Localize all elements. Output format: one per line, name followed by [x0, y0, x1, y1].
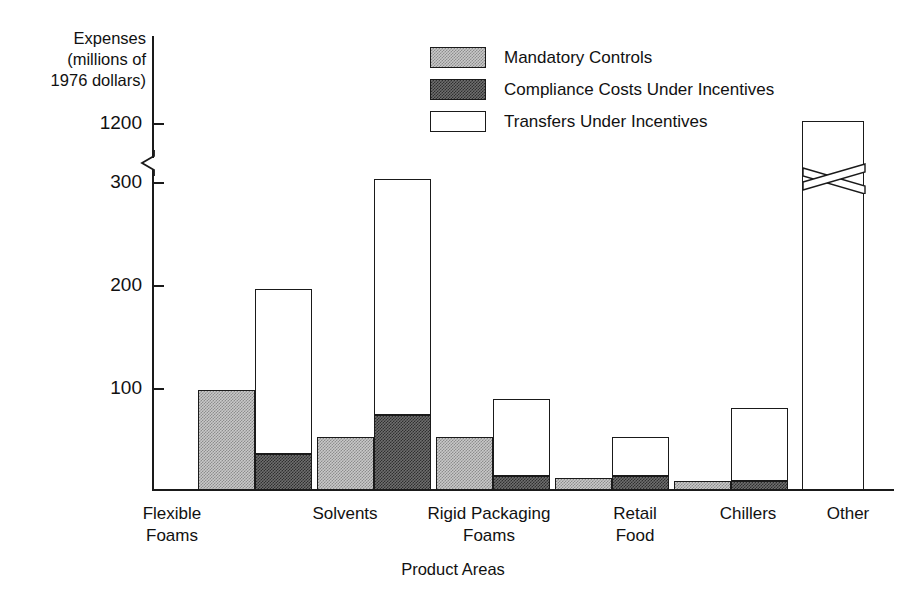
- x-tick-label-rigid-packaging-foams-line-2: Foams: [400, 525, 578, 547]
- bar-mandatory-chillers: [674, 481, 731, 490]
- x-tick-label-solvents: Solvents: [290, 503, 400, 525]
- bar-chart: Expenses (millions of 1976 dollars) 1200…: [0, 0, 906, 600]
- bar-incentives-other: [802, 121, 864, 490]
- segment-compliance-retail-food: [612, 476, 669, 490]
- x-tick-label-retail-food-line-1: Retail: [580, 503, 690, 525]
- segment-transfers-rigid-packaging-foams: [493, 399, 550, 476]
- x-axis-title: Product Areas: [0, 560, 906, 579]
- segment-transfers-solvents: [374, 179, 431, 415]
- y-axis-title-line-3: 1976 dollars): [18, 70, 146, 91]
- y-tick-label-100: 100: [52, 377, 142, 399]
- bar-mandatory-retail-food: [555, 478, 612, 490]
- segment-transfers-retail-food: [612, 437, 669, 476]
- bar-break-icon-other: [801, 160, 867, 194]
- x-tick-label-rigid-packaging-foams-line-1: Rigid Packaging: [400, 503, 578, 525]
- bar-incentives-flexible-foams: [255, 289, 312, 490]
- segment-compliance-solvents: [374, 415, 431, 490]
- plot-area: [154, 60, 894, 490]
- bar-incentives-rigid-packaging-foams: [493, 399, 550, 490]
- y-tick-label-1200: 1200: [52, 112, 142, 134]
- bar-mandatory-flexible-foams: [198, 390, 255, 490]
- segment-transfers-chillers: [731, 408, 788, 481]
- x-tick-label-other-line-1: Other: [800, 503, 896, 525]
- y-axis-title-line-2: (millions of: [18, 49, 146, 70]
- bar-incentives-retail-food: [612, 437, 669, 490]
- y-tick-label-200: 200: [52, 274, 142, 296]
- x-tick-label-rigid-packaging-foams: Rigid Packaging Foams: [400, 503, 578, 547]
- x-tick-label-solvents-line-1: Solvents: [290, 503, 400, 525]
- bar-mandatory-solvents: [317, 437, 374, 490]
- segment-compliance-chillers: [731, 481, 788, 490]
- bar-incentives-solvents: [374, 179, 431, 490]
- x-tick-label-retail-food: Retail Food: [580, 503, 690, 547]
- y-axis-title: Expenses (millions of 1976 dollars): [18, 28, 146, 91]
- segment-compliance-rigid-packaging-foams: [493, 476, 550, 490]
- bar-incentives-chillers: [731, 408, 788, 490]
- x-tick-label-chillers-line-1: Chillers: [693, 503, 803, 525]
- x-tick-label-flexible-foams-line-1: Flexible: [112, 503, 232, 525]
- x-tick-label-flexible-foams: Flexible Foams: [112, 503, 232, 547]
- x-tick-label-retail-food-line-2: Food: [580, 525, 690, 547]
- y-tick-label-300: 300: [52, 171, 142, 193]
- y-axis-title-line-1: Expenses: [18, 28, 146, 49]
- segment-compliance-flexible-foams: [255, 454, 312, 490]
- segment-transfers-flexible-foams: [255, 289, 312, 454]
- x-tick-label-chillers: Chillers: [693, 503, 803, 525]
- x-tick-label-other: Other: [800, 503, 896, 525]
- bar-mandatory-rigid-packaging-foams: [436, 437, 493, 490]
- x-tick-label-flexible-foams-line-2: Foams: [112, 525, 232, 547]
